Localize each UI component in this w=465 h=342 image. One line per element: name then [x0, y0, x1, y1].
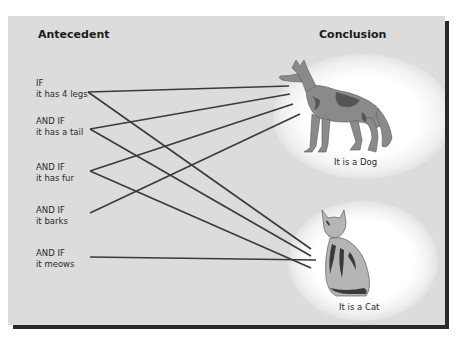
link-fur-cat	[90, 171, 311, 268]
diagram-panel: Antecedent Conclusion IF it has 4 legs A…	[8, 16, 445, 325]
link-barks-dog	[90, 114, 300, 213]
link-legs-dog	[88, 86, 289, 92]
link-meows-cat	[90, 257, 316, 260]
dog-conclusion-caption: It is a Dog	[334, 157, 377, 167]
dog-illustration	[276, 56, 406, 158]
cat-illustration	[316, 208, 376, 300]
link-tail-dog	[90, 94, 290, 129]
cat-conclusion-caption: It is a Cat	[339, 302, 379, 312]
